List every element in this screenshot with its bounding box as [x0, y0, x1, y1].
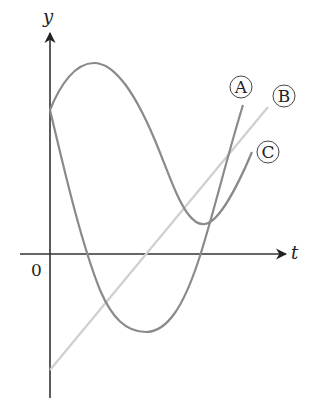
graph-diagram: y t 0 A B C — [0, 0, 313, 410]
origin-label: 0 — [31, 260, 42, 280]
svg-text:C: C — [261, 142, 274, 162]
curve-c — [50, 63, 252, 224]
curve-c-label: C — [257, 141, 279, 163]
svg-text:B: B — [278, 86, 291, 106]
curve-a-label: A — [230, 76, 252, 98]
y-axis-label: y — [42, 6, 54, 27]
svg-text:A: A — [234, 77, 248, 97]
curve-b-label: B — [273, 85, 295, 107]
t-axis-label: t — [291, 242, 299, 263]
